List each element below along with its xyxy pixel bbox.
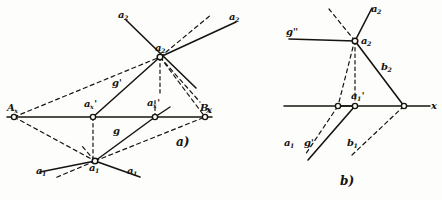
b-line-label-g-prime: g' xyxy=(304,138,313,148)
panel-a-dashed-Ax-a1 xyxy=(14,117,95,161)
b-ray-label-a2: a2 xyxy=(371,4,382,14)
panel-a-ray-a1 xyxy=(40,161,95,172)
panel-b-node-right xyxy=(401,103,406,108)
panel-a-node-axp xyxy=(90,114,95,119)
panel-b-node-a2 xyxy=(352,38,358,44)
panel-a-ray-a2-right xyxy=(160,22,236,57)
b-line-label-g-double-prime: g'' xyxy=(286,27,298,37)
point-label-ax-prime: ax' xyxy=(84,99,96,109)
caption-b: b) xyxy=(340,175,354,187)
ray-label-a1-lower-right: a1 xyxy=(127,166,138,176)
axis-label-x-a: x xyxy=(206,105,212,115)
point-label-Ax: Ax xyxy=(7,103,18,113)
panel-a-strokes xyxy=(7,14,236,178)
b-line-label-a1: a1 xyxy=(284,138,295,148)
figure-canvas xyxy=(0,0,442,200)
caption-a: a) xyxy=(176,136,189,148)
panel-b-segment-g-dprime xyxy=(289,39,355,41)
line-label-g: g xyxy=(113,126,120,136)
b-line-label-b2: b2 xyxy=(381,62,392,72)
panel-a-dashed-a2-Bx xyxy=(160,57,205,117)
panel-a-node-a2 xyxy=(157,54,163,60)
point-label-a2: a2 xyxy=(155,43,166,53)
panel-a-dashed-a2-downright xyxy=(160,57,200,102)
point-label-ax-second: ax' xyxy=(147,98,159,108)
panel-a-dashed-a2-upright xyxy=(160,14,212,57)
panel-b-dashed-a2-upleft xyxy=(329,9,355,41)
panel-a-node-Ax xyxy=(11,114,16,119)
panel-a-segment-g xyxy=(95,117,155,161)
b-line-label-b1: b1 xyxy=(347,138,358,148)
ray-label-a1-lower-left: a1 xyxy=(36,166,47,176)
b-point-label-a1-prime: a1' xyxy=(351,91,364,101)
panel-b-node-left xyxy=(335,103,340,108)
panel-a-node-axs xyxy=(152,114,157,119)
panel-b-segment-g-prime xyxy=(308,106,355,160)
panel-a-node-Bx xyxy=(202,114,207,119)
ray-label-a2-upper-right: a2 xyxy=(229,12,240,22)
panel-a-segment-g-prime xyxy=(93,57,160,117)
point-label-a1: a1 xyxy=(89,163,100,173)
panel-b-node-a1p xyxy=(352,103,357,108)
line-label-g-prime: g' xyxy=(112,78,121,88)
ray-label-a2-upper-left: a2 xyxy=(118,10,129,20)
panel-b-dashed-b1 xyxy=(352,106,404,155)
b-point-label-a2: a2 xyxy=(361,36,372,46)
geometry-figure: Ax Bx ax' ax' a2 a1 a2 a2 a1 a1 g' g x a… xyxy=(0,0,442,200)
axis-label-x-b: x xyxy=(431,101,437,111)
